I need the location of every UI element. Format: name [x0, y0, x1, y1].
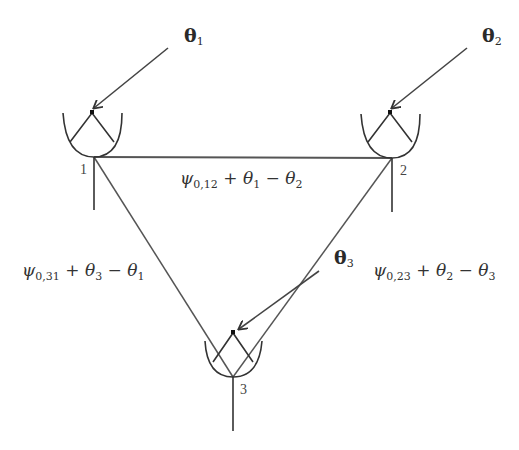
- psi-symbol: ψ: [22, 260, 35, 280]
- theta-symbol: θ: [184, 24, 197, 46]
- edge-1-2: [94, 157, 392, 158]
- theta-symbol: θ: [482, 24, 495, 46]
- plus-theta: + θ: [411, 260, 446, 280]
- feed-point-icon: [90, 110, 94, 114]
- antenna-triangle-diagram: [0, 0, 519, 450]
- minus-theta: − θ: [260, 168, 295, 188]
- antenna-node-1: [63, 48, 168, 210]
- dish-icon: [63, 113, 122, 157]
- incident-arrow-3: [239, 271, 319, 329]
- theta-label-3: θ3: [334, 248, 354, 269]
- theta-subscript: 1: [197, 35, 204, 48]
- theta-symbol: θ: [334, 246, 347, 268]
- psi-symbol: ψ: [180, 168, 193, 188]
- antenna-node-3: [205, 271, 319, 431]
- phase-label-3-1: ψ0,31 + θ3 − θ1: [22, 262, 144, 282]
- feed-point-icon: [231, 330, 235, 334]
- psi-subscript: 0,31: [35, 270, 60, 283]
- node-number-3: 3: [240, 383, 247, 397]
- minus-theta: − θ: [102, 260, 137, 280]
- theta-b-subscript: 3: [488, 270, 495, 283]
- dish-icon: [361, 114, 420, 158]
- theta-subscript: 3: [347, 257, 354, 270]
- feed-v-icon: [70, 113, 114, 142]
- incident-arrow-2: [392, 48, 467, 108]
- theta-label-2: θ2: [482, 26, 502, 47]
- psi-symbol: ψ: [373, 260, 386, 280]
- minus-theta: − θ: [453, 260, 488, 280]
- phase-label-1-2: ψ0,12 + θ1 − θ2: [180, 170, 302, 190]
- node-number-1: 1: [80, 163, 87, 177]
- theta-subscript: 2: [495, 35, 502, 48]
- theta-label-1: θ1: [184, 26, 204, 47]
- phase-label-2-3: ψ0,23 + θ2 − θ3: [373, 262, 495, 282]
- feed-v-icon: [368, 113, 412, 142]
- theta-b-subscript: 2: [295, 178, 302, 191]
- feed-point-icon: [388, 110, 392, 114]
- plus-theta: + θ: [218, 168, 253, 188]
- theta-b-subscript: 1: [137, 270, 144, 283]
- psi-subscript: 0,23: [386, 270, 411, 283]
- antenna-node-2: [361, 48, 467, 212]
- psi-subscript: 0,12: [193, 178, 218, 191]
- incident-arrow-1: [94, 48, 168, 108]
- node-number-2: 2: [400, 164, 407, 178]
- plus-theta: + θ: [60, 260, 95, 280]
